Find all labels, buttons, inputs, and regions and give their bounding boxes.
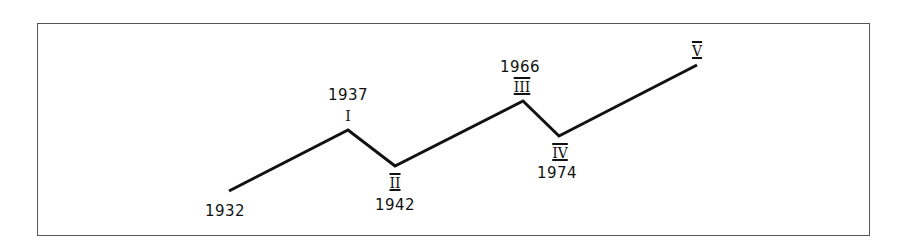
year-label-1942: 1942 [375, 196, 415, 214]
year-label-1974: 1974 [537, 164, 577, 182]
year-label-1966: 1966 [500, 58, 540, 76]
wave-label-v: V [692, 44, 702, 58]
wave-label-iii: III [514, 80, 531, 94]
wave-line-chart [0, 0, 904, 248]
wave-label-ii: II [389, 176, 400, 190]
wave-label-i: I [345, 109, 351, 123]
year-label-1932: 1932 [205, 202, 245, 220]
year-label-1937: 1937 [328, 86, 368, 104]
wave-label-iv: IV [552, 146, 568, 160]
wave-line [229, 65, 697, 191]
